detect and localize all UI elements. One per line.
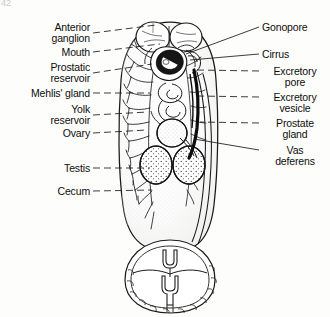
label-ovary: Ovary [34,128,90,139]
label-prostatic-reservoir: Prostatic reservoir [14,62,90,84]
label-testis: Testis [32,163,90,174]
ventral-sucker [170,23,202,51]
haptor [125,240,216,313]
label-mouth: Mouth [28,47,90,58]
label-mehlis-gland: Mehlis' gland [8,88,90,99]
ovary-organ [157,119,187,147]
label-excretory-pore: Excretory pore [262,66,328,88]
label-gonopore: Gonopore [262,22,328,33]
label-yolk-reservoir: Yolk reservoir [22,104,90,126]
label-cirrus: Cirrus [262,49,328,60]
label-prostate-gland: Prostate gland [262,118,328,140]
label-anterior-ganglion: Anterior ganglion [18,22,90,44]
testis-right [173,146,205,184]
label-cecum: Cecum [28,186,90,197]
testis-left [140,146,172,184]
label-vas-deferens: Vas deferens [262,145,328,167]
label-excretory-vesicle: Excretory vesicle [262,92,328,114]
